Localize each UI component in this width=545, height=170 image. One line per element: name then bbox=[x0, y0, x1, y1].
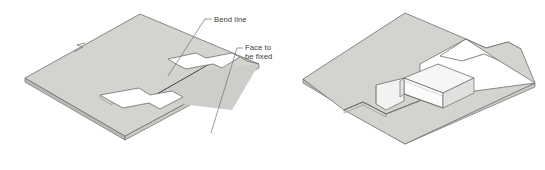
bend-line-label: Bend line bbox=[214, 15, 247, 24]
bent-right-tab-top bbox=[466, 39, 535, 83]
diagram-canvas: Bend line Face to be fixed bbox=[0, 0, 545, 170]
face-to-be-fixed-label-line2: be fixed bbox=[245, 52, 272, 61]
face-to-be-fixed-label-line1: Face to bbox=[245, 43, 271, 52]
view-flat-pattern bbox=[25, 14, 259, 140]
technical-diagram: Bend line Face to be fixed bbox=[0, 0, 545, 170]
channel-left-wall bbox=[400, 78, 404, 97]
view-bent-result bbox=[303, 13, 535, 144]
